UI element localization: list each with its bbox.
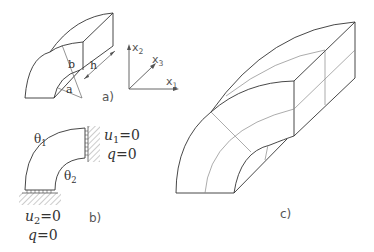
label-h: h [90,60,97,71]
bottom-bc-u2: u2=0 [25,209,61,226]
caption-b: b) [89,212,101,224]
caption-c: c) [280,208,291,220]
label-a: a [66,84,73,95]
axis-label-x2: x2 [132,42,143,56]
label-b: b [68,59,75,70]
axis-label-x1: x1 [166,76,177,90]
bottom-support [19,190,61,205]
bottom-bc-q: q=0 [28,228,58,242]
outer-arc [25,52,50,98]
axis-label-x3: x3 [152,54,163,68]
right-bc-q: q=0 [107,147,137,161]
label-theta1: θ1 [34,133,47,147]
right-support [85,126,100,162]
label-theta2: θ2 [64,170,77,184]
caption-a: a) [102,91,114,103]
panel-c-drawing [176,22,355,193]
right-bc-u1: u1=0 [104,128,140,145]
